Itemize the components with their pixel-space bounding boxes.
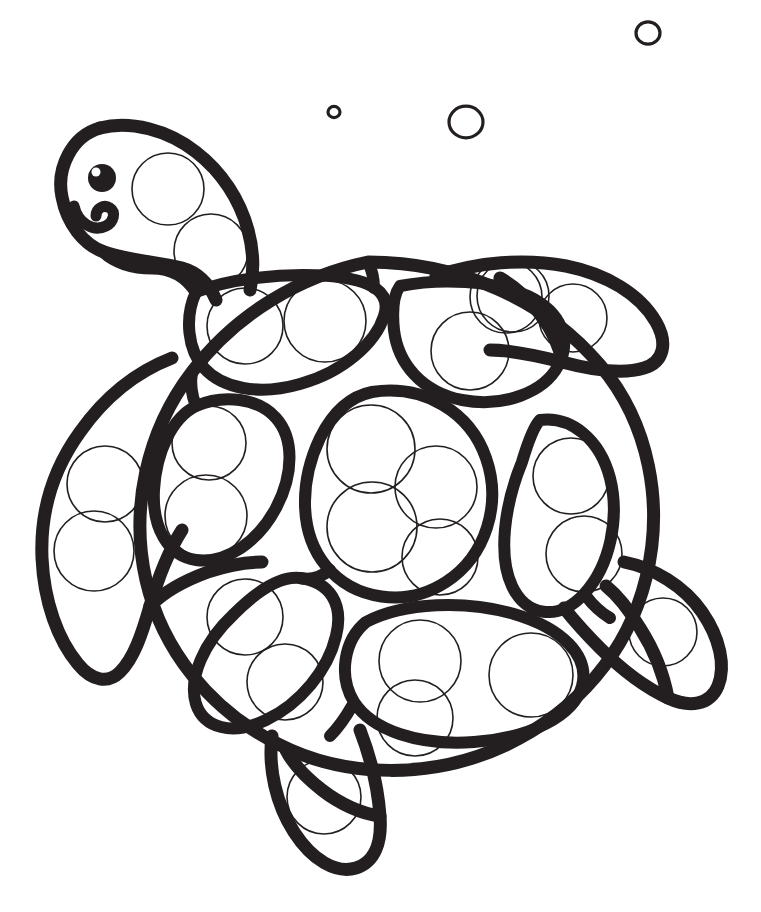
bubble-small-icon [328,106,340,117]
dot-circle [395,446,477,528]
plate-divider-right-lower [586,596,610,618]
dot-circle [172,406,246,480]
dot-circle [165,475,247,557]
dot-circle [54,511,134,591]
dot-circle [284,280,366,362]
turtle-outlines [42,125,722,869]
dot-circle [207,579,283,655]
eye-highlight [92,168,101,177]
bubble-large-icon [636,22,660,44]
dot-circle [174,214,248,288]
bubbles-group [328,22,660,138]
plate-upper-right [393,281,564,402]
dot-circle [489,633,573,717]
plate-divider-top-center [368,262,374,288]
sea-turtle-line-art [0,0,761,912]
bubble-medium-icon [449,106,483,138]
mouth-curve [74,206,113,228]
plate-divider-bottom [330,706,352,736]
dot-circle [377,680,453,756]
plate-divider-lower-center [300,570,330,579]
front-left-flipper-dots [54,446,143,591]
dot-circle [327,482,417,572]
center-plate-dots [327,405,478,595]
eye [88,164,116,192]
plate-divider-left-top [191,372,196,406]
dot-circle [379,620,461,702]
dot-circle [132,153,204,225]
dot-circle [327,405,415,493]
coloring-page-canvas [0,0,761,912]
dot-circle [67,446,143,522]
dot-circle [533,438,609,514]
